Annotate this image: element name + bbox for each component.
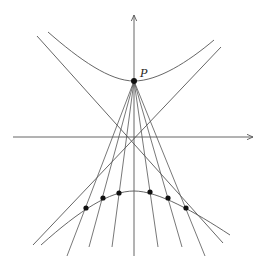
ray-6 [134,81,205,256]
intersection-points [83,189,188,210]
diagram-canvas: P [0,0,267,267]
point-4 [147,189,152,194]
point-1 [83,205,88,210]
point-2 [100,195,105,200]
ray-4 [134,81,158,247]
asymptote-2 [33,47,221,245]
point-6 [183,205,188,210]
ray-fan [67,81,205,256]
point-3 [116,190,121,195]
point-p [131,78,137,84]
ray-3 [112,81,134,247]
hyperbola-upper-branch [48,32,214,81]
point-5 [165,195,170,200]
hyperbola-lower-branch [41,191,230,245]
hyperbola-diagram: P [0,0,267,267]
ray-5 [134,81,182,247]
ray-2 [89,81,134,247]
point-p-label: P [139,67,148,80]
